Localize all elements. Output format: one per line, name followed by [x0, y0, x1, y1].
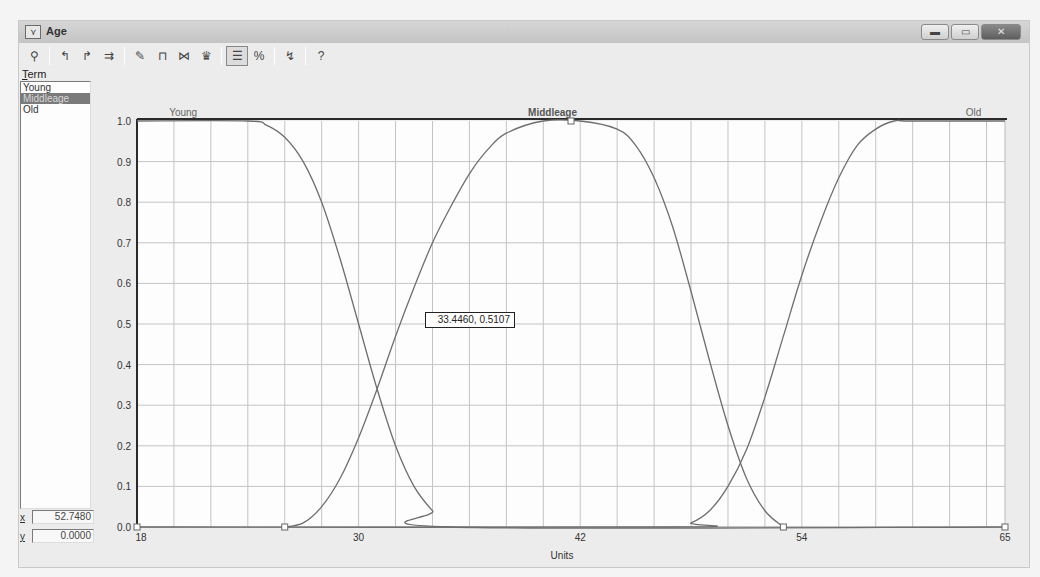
term-label-middleage: Middleage — [528, 107, 577, 118]
y-tick-label: 0.8 — [117, 197, 131, 208]
y-tick-label: 0.7 — [117, 238, 131, 249]
curve-handle[interactable] — [1002, 524, 1008, 530]
curve-handle[interactable] — [780, 524, 786, 530]
y-tick-label: 0.9 — [117, 157, 131, 168]
x-tick-label: 65 — [999, 532, 1011, 543]
x-tick-label: 54 — [796, 532, 808, 543]
curve-handle[interactable] — [282, 524, 288, 530]
y-tick-label: 0.4 — [117, 360, 131, 371]
membership-chart[interactable]: 0.00.10.20.30.40.50.60.70.80.91.01830425… — [0, 0, 1040, 577]
y-tick-label: 0.1 — [117, 481, 131, 492]
y-tick-label: 0.0 — [117, 522, 131, 533]
term-label-young: Young — [169, 107, 197, 118]
y-tick-label: 0.3 — [117, 400, 131, 411]
y-tick-label: 0.2 — [117, 441, 131, 452]
y-tick-label: 0.6 — [117, 278, 131, 289]
x-tick-label: 18 — [135, 532, 147, 543]
curve-handle[interactable] — [568, 118, 574, 124]
curve-handle[interactable] — [134, 524, 140, 530]
x-axis-label: Units — [551, 550, 574, 561]
y-tick-label: 0.5 — [117, 319, 131, 330]
x-tick-label: 42 — [575, 532, 587, 543]
term-label-old: Old — [966, 107, 982, 118]
y-tick-label: 1.0 — [117, 116, 131, 127]
cursor-readout: 33.4460, 0.5107 — [425, 312, 515, 328]
x-tick-label: 30 — [353, 532, 365, 543]
